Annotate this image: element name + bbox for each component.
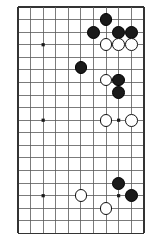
star-point: [117, 194, 120, 197]
star-point: [42, 194, 45, 197]
star-point: [42, 119, 45, 122]
black-stone[interactable]: [112, 86, 125, 99]
black-stone[interactable]: [112, 177, 125, 190]
black-stone[interactable]: [125, 189, 138, 202]
white-stone[interactable]: [100, 114, 113, 127]
board-grid: [0, 0, 164, 239]
white-stone[interactable]: [125, 38, 138, 51]
black-stone[interactable]: [87, 26, 100, 39]
star-point: [42, 43, 45, 46]
white-stone[interactable]: [125, 114, 138, 127]
black-stone[interactable]: [125, 26, 138, 39]
star-point: [117, 119, 120, 122]
go-board-diagram: [0, 0, 164, 239]
black-stone[interactable]: [75, 61, 88, 74]
white-stone[interactable]: [100, 202, 113, 215]
black-stone[interactable]: [112, 26, 125, 39]
